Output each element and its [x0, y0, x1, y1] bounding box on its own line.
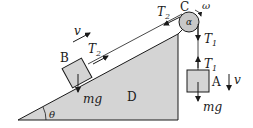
pulley-incline-diagram: C ω α T2 T2 T1 T1 v B mg D θ A v mg	[0, 0, 253, 128]
label-mg-b: mg	[83, 92, 102, 106]
label-v-a: v	[234, 73, 241, 87]
pulley-support	[178, 30, 182, 34]
label-t2-lower: T2	[88, 42, 101, 58]
label-t1-upper: T1	[204, 32, 217, 48]
label-t2-upper: T2	[157, 5, 170, 21]
label-omega: ω	[202, 0, 210, 11]
label-t1-lower: T1	[204, 57, 217, 73]
label-c: C	[180, 0, 189, 14]
label-mg-a: mg	[203, 100, 222, 114]
wedge-d	[18, 34, 178, 120]
label-alpha: α	[186, 17, 192, 27]
label-d: D	[127, 90, 137, 104]
label-theta: θ	[49, 109, 55, 120]
label-b: B	[60, 51, 69, 65]
label-v-b: v	[74, 24, 81, 38]
label-a: A	[211, 75, 221, 89]
